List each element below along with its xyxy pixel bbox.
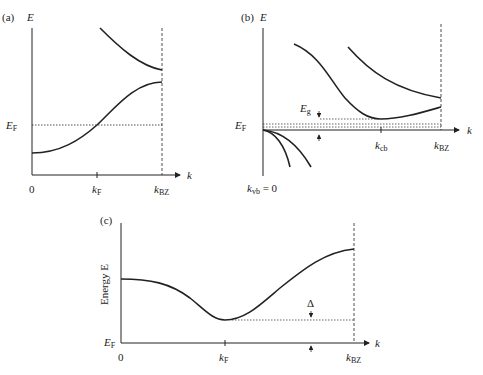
panel-b-fermi-label: EF — [234, 119, 247, 133]
panel-a: (a) E k EF 0 kF kBZ — [2, 11, 193, 197]
panel-b-conduction-band-2 — [348, 47, 441, 98]
panel-b-y-label: E — [259, 11, 267, 23]
panel-a-x-label: k — [187, 169, 193, 181]
panel-a-y-label: E — [26, 11, 34, 23]
panel-c-band — [121, 249, 354, 320]
panel-c-tag: (c) — [100, 214, 113, 227]
panel-a-tag: (a) — [2, 11, 15, 24]
panel-c-fermi-label: EF — [103, 336, 116, 350]
panel-b-conduction-band-1 — [294, 44, 441, 119]
panel-b-gap-label: Eg — [299, 102, 311, 116]
panel-c-tick-kf: kF — [219, 351, 229, 365]
panel-a-lower-band — [32, 82, 162, 153]
panel-b-tick-kcb: kcb — [375, 139, 387, 153]
panel-b-valence-band-2 — [263, 130, 311, 167]
panel-c-x-label: k — [375, 337, 381, 349]
panel-a-fermi-label: EF — [5, 119, 18, 133]
panel-b-tag: (b) — [241, 11, 254, 24]
panel-b: (b) E k EF Eg kcb kBZ kvb = 0 — [234, 11, 473, 196]
panel-c: (c) Energy E k Δ EF 0 kF kBZ — [98, 214, 381, 365]
band-structure-diagram: (a) E k EF 0 kF kBZ (b) E k EF — [0, 0, 483, 375]
panel-a-tick-kf: kF — [92, 183, 102, 197]
panel-c-tick-kbz: kBZ — [346, 351, 361, 365]
panel-b-tick-kbz: kBZ — [434, 139, 449, 153]
panel-c-y-label: Energy E — [98, 264, 110, 305]
panel-b-x-label: k — [467, 124, 473, 136]
panel-b-origin-label: kvb = 0 — [247, 182, 278, 196]
panel-c-tick-0: 0 — [118, 351, 124, 363]
panel-a-tick-0: 0 — [29, 183, 35, 195]
panel-c-gap-label: Δ — [307, 297, 314, 309]
panel-a-upper-band — [100, 28, 162, 70]
panel-b-valence-band-1 — [263, 130, 290, 167]
panel-a-tick-kbz: kBZ — [154, 183, 169, 197]
